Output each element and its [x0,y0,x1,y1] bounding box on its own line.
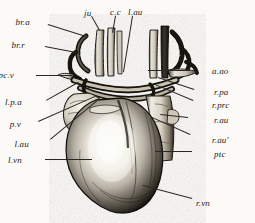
label-l-vn: l.vn [8,156,22,165]
leader-l-vn [45,159,92,160]
leader-ptc [155,151,192,152]
label-l-p-a: l.p.a [5,98,22,107]
heart-illustration [0,0,255,223]
label-r-pa: r.pa [214,88,229,97]
label-br-r: br.r [11,41,25,50]
label-p-v: p.v [10,120,21,129]
label-l-au: l.au [14,140,29,149]
label-r-au-prime: r.au' [212,136,229,145]
label-ptc: ptc [214,150,226,159]
label-r-vn: r.vn [196,199,210,208]
label-br-a: br.a [15,18,30,27]
label-l-au-top: l.au [128,8,143,17]
label-pc-v: pc.v [0,71,14,80]
leader-pc-v [36,75,72,76]
label-ju: ju [84,9,91,18]
leader-a-ao [148,70,190,71]
anatomical-figure: br.ajuc.cl.aubr.rpc.vl.p.ap.vl.aul.vna.a… [0,0,255,223]
label-r-prc: r.prc [212,101,229,110]
label-c-c: c.c [110,8,121,17]
label-a-ao: a.ao [212,67,229,76]
label-r-au: r.au [214,116,229,125]
